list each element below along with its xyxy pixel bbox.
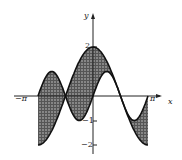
tick-label-neg-pi: −π <box>15 95 27 103</box>
x-axis-arrow-icon <box>156 94 162 98</box>
x-axis-label: x <box>168 98 173 106</box>
tick-label-minus1: −1 <box>82 117 94 125</box>
tick-label-minus2: −2 <box>81 141 93 149</box>
tick-label-2: 2 <box>85 42 90 50</box>
y-axis-label: y <box>84 12 89 20</box>
y-axis-arrow-icon <box>91 13 95 19</box>
tick-label-pi: π <box>150 95 155 103</box>
plot <box>0 0 182 160</box>
